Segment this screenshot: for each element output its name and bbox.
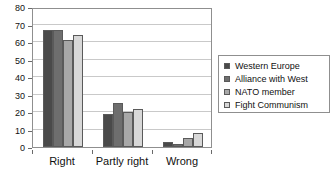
legend-item: NATO member xyxy=(224,86,326,98)
x-axis-tick-label: Wrong xyxy=(166,155,198,167)
y-axis: 01020304050607080 xyxy=(0,0,32,175)
bar xyxy=(73,35,83,147)
legend-swatch-icon xyxy=(224,76,230,82)
bar xyxy=(103,114,113,147)
legend-swatch-icon xyxy=(224,89,230,95)
legend-swatch-icon xyxy=(224,102,230,108)
legend-item: Fight Communism xyxy=(224,99,326,111)
bar xyxy=(63,40,73,147)
legend-item: Alliance with West xyxy=(224,73,326,85)
x-axis-tick-mark xyxy=(152,150,153,154)
legend-item-label: Western Europe xyxy=(235,61,300,71)
bar-chart: 01020304050607080 RightPartly rightWrong… xyxy=(0,0,333,175)
bar xyxy=(193,133,203,147)
bar xyxy=(133,109,143,148)
y-axis-tick-label: 30 xyxy=(15,91,25,100)
legend: Western EuropeAlliance with WestNATO mem… xyxy=(218,55,330,113)
x-axis-tick-mark xyxy=(92,150,93,154)
bar xyxy=(53,30,63,147)
y-axis-tick-label: 10 xyxy=(15,126,25,135)
legend-item-label: Fight Communism xyxy=(235,100,308,110)
legend-item: Western Europe xyxy=(224,60,326,72)
x-axis-tick-mark xyxy=(32,150,33,154)
x-axis-tick-label: Right xyxy=(49,155,75,167)
y-axis-tick-label: 20 xyxy=(15,109,25,118)
y-axis-tick-mark xyxy=(28,148,32,149)
x-axis-tick-label: Partly right xyxy=(96,155,149,167)
y-axis-tick-label: 0 xyxy=(20,144,25,153)
x-axis-tick-mark xyxy=(211,150,212,154)
legend-swatch-icon xyxy=(224,63,230,69)
y-axis-tick-label: 60 xyxy=(15,39,25,48)
gridline xyxy=(33,24,211,25)
x-axis: RightPartly rightWrong xyxy=(32,150,212,172)
plot-area xyxy=(32,8,212,148)
y-axis-tick-label: 40 xyxy=(15,74,25,83)
legend-item-label: NATO member xyxy=(235,87,295,97)
bar xyxy=(113,103,123,147)
y-axis-tick-label: 80 xyxy=(15,4,25,13)
bar xyxy=(173,144,183,148)
y-axis-tick-label: 70 xyxy=(15,21,25,30)
bar xyxy=(43,30,53,147)
bar xyxy=(123,112,133,147)
bar xyxy=(163,142,173,147)
y-axis-tick-label: 50 xyxy=(15,56,25,65)
bar xyxy=(183,138,193,147)
legend-item-label: Alliance with West xyxy=(235,74,308,84)
